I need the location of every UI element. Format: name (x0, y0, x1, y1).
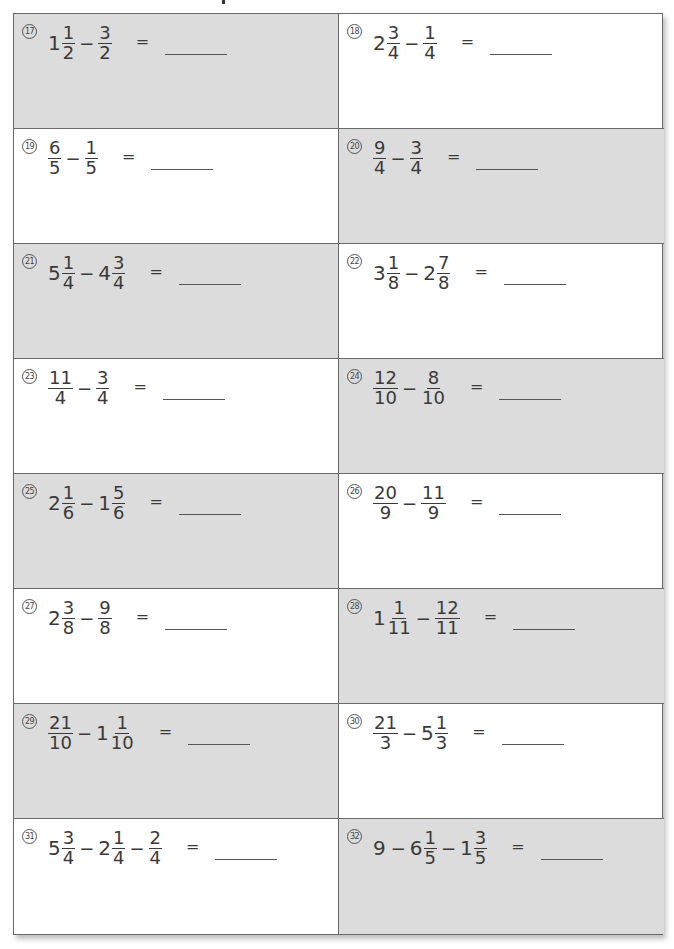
circled-number-icon: 20 (347, 139, 362, 154)
denominator: 6 (62, 504, 75, 523)
denominator: 6 (112, 504, 125, 523)
numerator: 3 (96, 369, 109, 389)
answer-blank[interactable] (188, 743, 250, 745)
fraction: 14 (62, 254, 75, 293)
denominator: 9 (427, 504, 440, 523)
term: 615 (410, 829, 437, 868)
term: 1110 (96, 714, 135, 753)
circled-number-icon: 26 (347, 484, 362, 499)
fraction: 34 (112, 254, 125, 293)
problem-number: 28 (347, 598, 369, 614)
problem-cell-21: 21514−434= (14, 244, 339, 359)
minus-operator: − (390, 148, 405, 169)
problem: 17112−32= (22, 22, 227, 63)
fraction: 24 (149, 829, 162, 868)
term: 114 (48, 369, 73, 408)
problem-number: 24 (347, 368, 369, 384)
fraction: 15 (424, 829, 437, 868)
expression: 318−278= (373, 254, 566, 293)
term: 65 (48, 139, 61, 178)
fraction: 14 (112, 829, 125, 868)
numerator: 12 (373, 369, 398, 389)
denominator: 10 (421, 389, 446, 408)
expression: 112−32= (48, 24, 227, 63)
denominator: 10 (48, 734, 73, 753)
numerator: 1 (112, 829, 125, 849)
denominator: 3 (379, 734, 392, 753)
whole-number: 1 (48, 33, 61, 53)
problem-number: 18 (347, 23, 369, 39)
equals-sign: = (461, 32, 474, 51)
answer-blank[interactable] (165, 53, 227, 55)
whole-number: 9 (373, 838, 386, 858)
answer-blank[interactable] (179, 283, 241, 285)
answer-blank[interactable] (165, 628, 227, 630)
numerator: 2 (149, 829, 162, 849)
answer-blank[interactable] (179, 513, 241, 515)
worksheet-grid: 17112−32=18234−14=1965−15=2094−34=21514−… (13, 13, 663, 935)
term: 112 (48, 24, 75, 63)
problem-cell-29: 292110−1110= (14, 704, 339, 819)
numerator: 6 (48, 139, 61, 159)
problem: 329−615−135= (347, 827, 603, 868)
equals-sign: = (149, 492, 162, 511)
problem-number: 30 (347, 713, 369, 729)
problem-number: 29 (22, 713, 44, 729)
circled-number-icon: 31 (22, 829, 37, 844)
answer-blank[interactable] (513, 628, 575, 630)
problem: 30213−513= (347, 712, 564, 753)
numerator: 8 (427, 369, 440, 389)
answer-blank[interactable] (490, 53, 552, 55)
term: 9 (373, 838, 387, 858)
problem: 18234−14= (347, 22, 552, 63)
problem-number: 26 (347, 483, 369, 499)
circled-number-icon: 19 (22, 139, 37, 154)
fraction: 56 (112, 484, 125, 523)
answer-blank[interactable] (502, 743, 564, 745)
answer-blank[interactable] (499, 513, 561, 515)
denominator: 4 (62, 849, 75, 868)
expression: 209−119= (373, 484, 561, 523)
equals-sign: = (447, 147, 460, 166)
problem-cell-26: 26209−119= (339, 474, 664, 589)
answer-blank[interactable] (151, 168, 213, 170)
denominator: 9 (379, 504, 392, 523)
problem-number: 17 (22, 23, 44, 39)
denominator: 5 (85, 159, 98, 178)
term: 94 (373, 139, 386, 178)
expression: 514−434= (48, 254, 241, 293)
problem-number: 25 (22, 483, 44, 499)
numerator: 1 (423, 24, 436, 44)
numerator: 11 (48, 369, 73, 389)
fraction: 34 (96, 369, 109, 408)
whole-number: 5 (48, 838, 61, 858)
fraction: 110 (110, 714, 135, 753)
problem: 22318−278= (347, 252, 566, 293)
denominator: 5 (474, 849, 487, 868)
denominator: 10 (110, 734, 135, 753)
denominator: 4 (112, 274, 125, 293)
minus-operator: − (79, 838, 94, 859)
answer-blank[interactable] (215, 858, 277, 860)
answer-blank[interactable] (504, 283, 566, 285)
problem-cell-32: 329−615−135= (339, 819, 664, 934)
denominator: 4 (387, 44, 400, 63)
term: 214 (98, 829, 125, 868)
answer-blank[interactable] (476, 168, 538, 170)
problem-cell-17: 17112−32= (14, 14, 339, 129)
expression: 1111−1211= (373, 599, 575, 638)
numerator: 1 (424, 829, 437, 849)
expression: 94−34= (373, 139, 538, 178)
expression: 9−615−135= (373, 829, 603, 868)
answer-blank[interactable] (163, 398, 225, 400)
whole-number: 2 (373, 33, 386, 53)
numerator: 3 (474, 829, 487, 849)
answer-blank[interactable] (541, 858, 603, 860)
fraction: 94 (373, 139, 386, 178)
equals-sign: = (472, 722, 485, 741)
problem-cell-27: 27238−98= (14, 589, 339, 704)
denominator: 5 (48, 159, 61, 178)
answer-blank[interactable] (499, 398, 561, 400)
problem-cell-18: 18234−14= (339, 14, 664, 129)
minus-operator: − (77, 378, 92, 399)
